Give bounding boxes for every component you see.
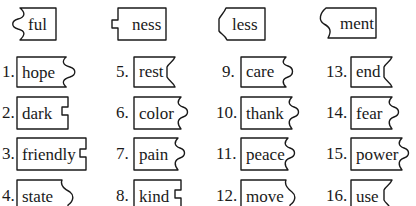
word-piece-care: care xyxy=(240,56,292,88)
word-piece-use: use xyxy=(350,179,396,206)
word-label: friendly xyxy=(22,146,76,163)
item-number: 10. xyxy=(216,104,237,121)
item-number: 12. xyxy=(216,187,237,204)
word-piece-fear: fear xyxy=(350,96,400,130)
word-label: power xyxy=(356,146,398,163)
word-label: end xyxy=(356,63,381,80)
item-number: 2. xyxy=(2,104,15,121)
suffix-label: less xyxy=(232,16,258,33)
suffix-label: ness xyxy=(132,16,161,33)
item-number: 14. xyxy=(326,104,347,121)
word-piece-peace: peace xyxy=(240,137,294,171)
item-number: 13. xyxy=(326,63,347,80)
word-piece-end: end xyxy=(350,56,396,88)
word-label: color xyxy=(139,105,174,122)
word-piece-move: move xyxy=(240,179,296,206)
word-piece-rest: rest xyxy=(133,56,179,88)
word-label: fear xyxy=(356,105,382,122)
word-label: use xyxy=(356,188,379,205)
item-number: 3. xyxy=(2,145,15,162)
item-number: 7. xyxy=(116,145,129,162)
suffix-piece-ment: ment xyxy=(318,7,378,41)
word-label: state xyxy=(22,188,53,205)
word-piece-color: color xyxy=(133,96,187,130)
word-label: dark xyxy=(22,105,52,122)
word-piece-state: state xyxy=(16,179,74,206)
word-piece-pain: pain xyxy=(133,137,185,171)
item-number: 5. xyxy=(116,63,129,80)
suffix-label: ment xyxy=(340,15,374,32)
item-number: 4. xyxy=(2,187,15,204)
suffix-piece-ness: ness xyxy=(110,7,168,41)
suffix-piece-ful: ful xyxy=(6,7,58,41)
word-label: hope xyxy=(22,64,55,81)
word-label: pain xyxy=(139,146,168,163)
item-number: 6. xyxy=(116,104,129,121)
item-number: 15. xyxy=(326,145,347,162)
word-label: kind xyxy=(139,188,169,205)
item-number: 9. xyxy=(222,63,235,80)
word-piece-kind: kind xyxy=(133,179,185,206)
suffix-piece-less: less xyxy=(217,7,267,41)
item-number: 11. xyxy=(216,145,237,162)
word-label: care xyxy=(246,63,274,80)
word-piece-friendly: friendly xyxy=(16,137,88,171)
item-number: 1. xyxy=(2,63,15,80)
word-label: peace xyxy=(246,146,285,163)
suffix-label: ful xyxy=(28,16,47,33)
word-piece-hope: hope xyxy=(16,56,72,88)
word-label: move xyxy=(246,188,284,205)
word-label: thank xyxy=(246,105,284,122)
word-piece-dark: dark xyxy=(16,96,72,130)
word-label: rest xyxy=(139,63,164,80)
item-number: 8. xyxy=(116,187,129,204)
item-number: 16. xyxy=(326,187,347,204)
word-piece-power: power xyxy=(350,137,410,171)
word-piece-thank: thank xyxy=(240,96,298,130)
